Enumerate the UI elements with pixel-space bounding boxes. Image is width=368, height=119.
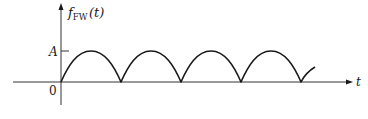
x-axis-arrow-icon [346,80,353,85]
x-axis-label: t [356,75,361,89]
y-axis-label: fFW(t) [67,5,104,22]
origin-label: 0 [49,84,57,98]
y-axis-arrow-icon [59,3,64,10]
full-wave-rectified-diagram: fFW(t) A 0 t [0,0,368,119]
amplitude-label: A [48,45,58,59]
waveform-curve [61,51,315,82]
